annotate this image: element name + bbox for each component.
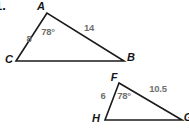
angle-label-a: 78° [41, 26, 54, 37]
geometry-diagram: 1. A C B 78° 8 14 F H G 78° 6 10.5 [0, 0, 189, 130]
angle-label-f: 78° [117, 90, 130, 101]
vertex-label-h: H [92, 112, 100, 124]
vertex-label-f: F [111, 71, 118, 83]
vertex-label-a: A [37, 0, 45, 12]
side-label-fg: 10.5 [149, 83, 166, 94]
side-label-ab: 14 [84, 22, 94, 33]
triangle-abc-outline [16, 13, 124, 61]
vertex-label-c: C [5, 53, 13, 65]
vertex-label-b: B [127, 51, 135, 63]
side-label-ac: 8 [27, 33, 32, 44]
side-label-fh: 6 [101, 90, 106, 101]
vertex-label-g: G [184, 111, 189, 123]
triangles-drawing [0, 0, 189, 130]
